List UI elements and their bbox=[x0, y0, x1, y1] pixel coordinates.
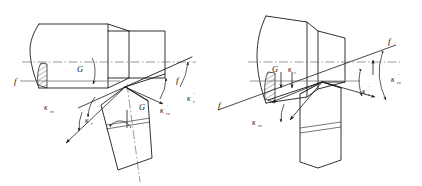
left-tool-rotation-label: G bbox=[139, 103, 145, 112]
svg-text:κ: κ bbox=[187, 94, 191, 103]
left-feed-label-left: f bbox=[14, 76, 18, 86]
right-workpiece bbox=[257, 16, 345, 103]
svg-text:κ: κ bbox=[362, 87, 366, 96]
svg-text:κ: κ bbox=[288, 65, 292, 74]
svg-text:rε: rε bbox=[166, 111, 170, 116]
svg-text:′: ′ bbox=[369, 85, 371, 90]
left-machined-face bbox=[125, 74, 165, 87]
left-feed-ray-right bbox=[125, 57, 192, 87]
left-workpiece-rotation-label: G bbox=[77, 65, 83, 74]
right-label-kappa-r-eps-prime: κ rε ′ bbox=[391, 73, 401, 85]
svg-text:rε: rε bbox=[258, 123, 262, 128]
right-arc-kappa-r-eps bbox=[281, 104, 284, 122]
left-arc-kappa-r-prime bbox=[160, 78, 166, 99]
left-right-edge-ray bbox=[125, 87, 163, 104]
svg-text:κ: κ bbox=[391, 75, 395, 84]
svg-text:κ: κ bbox=[85, 116, 89, 125]
svg-text:′: ′ bbox=[167, 104, 169, 109]
left-main-edge-ray bbox=[66, 87, 125, 143]
left-arc-kappa-r-eps-prime bbox=[180, 62, 188, 87]
svg-text:rε: rε bbox=[50, 109, 54, 114]
svg-text:r: r bbox=[91, 121, 93, 126]
right-feed-label-right: f bbox=[388, 36, 392, 46]
right-tool-body bbox=[300, 82, 341, 168]
right-label-kappa-r-eps: κ rε bbox=[252, 118, 262, 128]
left-tool-body bbox=[101, 84, 152, 182]
left-tool-rotation-arc bbox=[112, 121, 131, 128]
svg-text:rε: rε bbox=[397, 80, 401, 85]
right-label-kappa-r-prime: κ r ′ bbox=[362, 85, 371, 97]
technical-drawing: f f G G κ rε κ r κ r ′ κ rε ′ bbox=[0, 0, 422, 186]
svg-text:′: ′ bbox=[398, 73, 400, 78]
svg-text:r: r bbox=[368, 92, 370, 97]
left-label-kappa-r-eps: κ rε bbox=[44, 103, 54, 114]
right-arc-kappa-r-eps-prime bbox=[379, 54, 386, 100]
left-arc-kappa-r bbox=[88, 97, 95, 117]
right-diagram-group: f f G κ r κ rε κ r ′ κ rε ′ bbox=[218, 16, 401, 168]
diagram-canvas: f f G G κ rε κ r κ r ′ κ rε ′ bbox=[0, 0, 422, 186]
left-label-kappa-r-eps-prime: κ rε ′ bbox=[160, 104, 170, 116]
left-feed-label-right: f bbox=[176, 75, 180, 85]
svg-text:κ: κ bbox=[160, 106, 164, 115]
svg-text:r: r bbox=[193, 99, 195, 104]
svg-text:κ: κ bbox=[44, 103, 48, 112]
left-diagram-group: f f G G κ rε κ r κ r ′ κ rε ′ bbox=[14, 24, 196, 182]
svg-text:r: r bbox=[294, 70, 296, 75]
svg-text:κ: κ bbox=[252, 118, 256, 127]
right-workpiece-rotation-label: G bbox=[272, 65, 278, 74]
left-label-kappa-r-prime: κ r ′ bbox=[187, 92, 196, 104]
svg-text:′: ′ bbox=[194, 92, 196, 97]
